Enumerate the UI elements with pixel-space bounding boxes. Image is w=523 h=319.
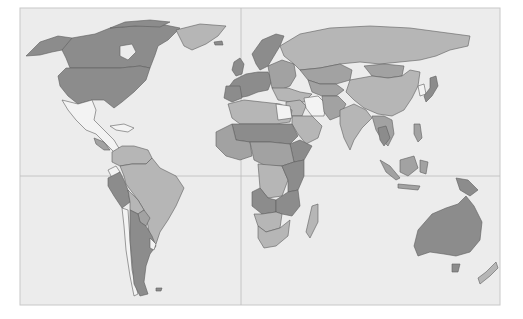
region-iceland[interactable]	[214, 41, 223, 45]
region-falklands[interactable]	[156, 288, 162, 291]
world-map-svg	[0, 0, 523, 319]
region-egypt[interactable]	[276, 104, 292, 120]
world-map	[0, 0, 523, 319]
